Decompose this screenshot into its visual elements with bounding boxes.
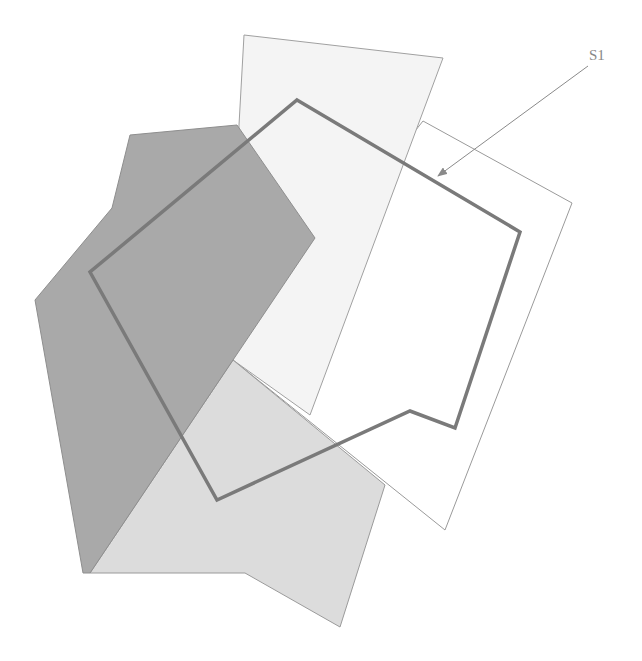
s1-leader-arrow (438, 66, 588, 176)
overlapping-polygons-diagram: S1 (0, 0, 642, 661)
s1-label: S1 (589, 47, 605, 63)
